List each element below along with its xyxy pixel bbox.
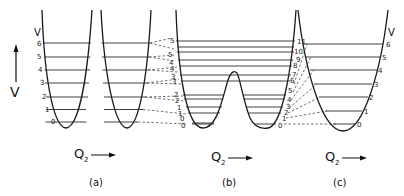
svg-text:3: 3 bbox=[171, 73, 175, 81]
energy-axis-label: V bbox=[10, 84, 20, 100]
svg-text:5: 5 bbox=[170, 37, 174, 45]
svg-text:0: 0 bbox=[278, 122, 282, 130]
panel-c-q2-label: Q 2 bbox=[325, 149, 367, 167]
svg-text:3: 3 bbox=[374, 81, 378, 89]
svg-text:5: 5 bbox=[37, 53, 41, 61]
svg-text:1: 1 bbox=[364, 108, 368, 116]
svg-text:V: V bbox=[34, 27, 41, 38]
svg-text:6: 6 bbox=[386, 41, 391, 49]
svg-text:0: 0 bbox=[357, 121, 361, 129]
svg-text:4: 4 bbox=[38, 66, 43, 74]
svg-text:2: 2 bbox=[221, 159, 225, 167]
arrow-right-icon bbox=[360, 156, 367, 161]
svg-text:4: 4 bbox=[169, 59, 174, 67]
svg-text:Q: Q bbox=[211, 149, 221, 164]
svg-text:2: 2 bbox=[174, 91, 178, 99]
energy-level-diagram: V 0 1 2 3 4 5 6 V bbox=[0, 0, 404, 196]
svg-text:0: 0 bbox=[51, 118, 55, 126]
svg-text:Q: Q bbox=[74, 146, 84, 161]
svg-text:4: 4 bbox=[378, 67, 383, 75]
svg-text:2: 2 bbox=[369, 94, 373, 102]
panel-b-q2-label: Q 2 bbox=[211, 149, 253, 167]
svg-text:5: 5 bbox=[168, 51, 172, 59]
energy-axis-arrow-icon bbox=[14, 44, 19, 82]
svg-text:9: 9 bbox=[296, 56, 300, 64]
panel-c-label: (c) bbox=[333, 177, 346, 188]
panel-b-label: (b) bbox=[222, 177, 236, 188]
svg-text:3: 3 bbox=[40, 79, 44, 87]
svg-text:0: 0 bbox=[181, 122, 185, 130]
svg-text:2: 2 bbox=[42, 93, 46, 101]
panel-c-single-well bbox=[298, 10, 388, 131]
panel-a-left-well bbox=[42, 10, 92, 128]
svg-text:2: 2 bbox=[84, 156, 88, 164]
svg-text:10: 10 bbox=[294, 48, 303, 56]
panel-a-right-well bbox=[101, 10, 151, 128]
svg-text:5: 5 bbox=[382, 54, 386, 62]
svg-text:11: 11 bbox=[297, 38, 306, 46]
panel-a-level-numbers: 0 1 2 3 4 5 6 V bbox=[34, 27, 55, 126]
panel-a-label: (a) bbox=[89, 177, 103, 188]
arrow-right-icon bbox=[109, 153, 116, 158]
svg-text:Q: Q bbox=[325, 149, 335, 164]
svg-text:1: 1 bbox=[177, 104, 181, 112]
arrow-right-icon bbox=[246, 156, 253, 161]
svg-text:5: 5 bbox=[288, 87, 292, 95]
svg-text:V: V bbox=[388, 27, 395, 38]
svg-text:1: 1 bbox=[45, 106, 49, 114]
panel-a-q2-label: Q 2 bbox=[74, 146, 116, 164]
svg-text:2: 2 bbox=[335, 159, 339, 167]
panel-b-double-well bbox=[176, 10, 296, 128]
svg-text:6: 6 bbox=[37, 40, 42, 48]
